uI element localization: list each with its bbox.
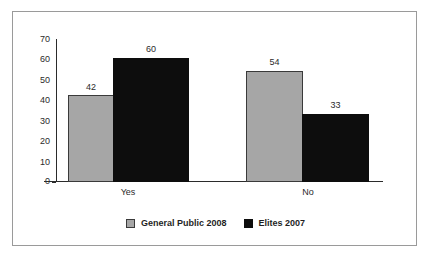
x-axis-category-label-yes: Yes bbox=[98, 187, 158, 198]
y-axis-tick-mark-0 bbox=[52, 182, 56, 183]
y-tick-label-40: 40 bbox=[28, 96, 50, 105]
y-axis-line bbox=[56, 39, 57, 182]
bar-value-yes-elites-2007: 60 bbox=[113, 44, 189, 54]
chart-legend: General Public 2008 Elites 2007 bbox=[126, 215, 305, 231]
bar-yes-elites-2007 bbox=[113, 58, 189, 182]
bar-yes-general-public-2008 bbox=[68, 95, 114, 182]
black-swatch-icon bbox=[244, 219, 253, 228]
legend-label-general-public-2008: General Public 2008 bbox=[141, 218, 227, 228]
bar-value-no-general-public-2008: 54 bbox=[246, 57, 303, 67]
legend-entry-general-public-2008: General Public 2008 bbox=[126, 218, 227, 228]
legend-entry-elites-2007: Elites 2007 bbox=[244, 218, 306, 228]
bar-chart-figure: 70 60 50 40 30 20 10 0 42 60 bbox=[0, 0, 429, 259]
y-tick-label-20: 20 bbox=[28, 137, 50, 146]
gray-swatch-icon bbox=[126, 219, 135, 228]
bar-value-yes-general-public-2008: 42 bbox=[68, 82, 114, 92]
y-tick-label-60: 60 bbox=[28, 55, 50, 64]
bar-no-elites-2007 bbox=[302, 114, 369, 182]
y-tick-label-50: 50 bbox=[28, 76, 50, 85]
x-axis-category-label-no: No bbox=[278, 187, 338, 198]
bar-no-general-public-2008 bbox=[246, 71, 303, 182]
y-tick-label-30: 30 bbox=[28, 117, 50, 126]
y-tick-label-70: 70 bbox=[28, 35, 50, 44]
bar-value-no-elites-2007: 33 bbox=[302, 100, 369, 110]
legend-label-elites-2007: Elites 2007 bbox=[259, 218, 306, 228]
y-tick-label-10: 10 bbox=[28, 158, 50, 167]
